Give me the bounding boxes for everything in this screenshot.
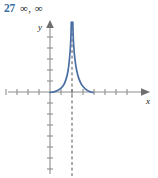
coordinate-plane-svg: y x bbox=[0, 18, 158, 178]
figure-panel: 27 ∞, ∞ bbox=[0, 0, 158, 178]
x-axis-label: x bbox=[145, 96, 150, 106]
y-axis-label: y bbox=[37, 22, 42, 32]
answer-value: ∞, ∞ bbox=[20, 2, 43, 14]
y-axis-arrow-icon bbox=[46, 20, 54, 28]
curve-right-branch bbox=[73, 22, 93, 93]
problem-number: 27 bbox=[4, 2, 15, 14]
answer-header: 27 ∞, ∞ bbox=[4, 2, 43, 18]
curve-left-branch bbox=[50, 22, 71, 93]
x-axis-arrow-icon bbox=[141, 88, 150, 96]
graph-plot: y x bbox=[0, 18, 158, 178]
